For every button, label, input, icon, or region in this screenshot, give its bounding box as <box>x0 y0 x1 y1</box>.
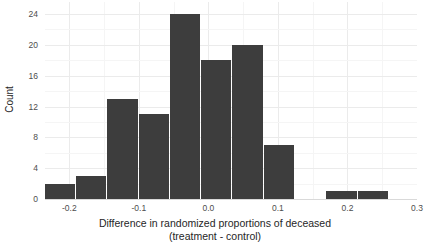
vertical-gridline-minor <box>382 2 383 199</box>
vertical-gridline-minor <box>313 2 314 199</box>
x-axis-tick-label: -0.2 <box>62 203 77 213</box>
y-axis-tick-label: 24 <box>29 9 38 19</box>
histogram-bar <box>264 145 294 199</box>
histogram-bar <box>358 191 388 199</box>
horizontal-gridline-major <box>45 45 417 46</box>
x-axis-tick-label: 0.0 <box>202 203 214 213</box>
y-axis-tick-label: 8 <box>33 132 38 142</box>
y-axis-title: Count <box>2 0 16 199</box>
y-axis-tick-label: 4 <box>33 163 38 173</box>
vertical-gridline-minor <box>104 2 105 199</box>
histogram-bar <box>201 60 231 199</box>
histogram-chart: Count 04812162024 -0.2-0.10.00.10.20.3 D… <box>0 0 430 248</box>
plot-panel <box>45 2 417 199</box>
x-axis-tick-label: 0.2 <box>342 203 354 213</box>
histogram-bar <box>326 191 356 199</box>
x-axis-tick-label: 0.3 <box>411 203 423 213</box>
horizontal-gridline-minor <box>45 29 417 30</box>
x-axis-title-line2: (treatment - control) <box>0 230 430 243</box>
histogram-bar <box>232 45 262 199</box>
histogram-bar <box>107 99 137 199</box>
histogram-bar <box>170 14 200 199</box>
y-axis-tick-label: 20 <box>29 40 38 50</box>
vertical-gridline-major <box>69 2 70 199</box>
x-axis-title-line1: Difference in randomized proportions of … <box>0 217 430 230</box>
histogram-bar <box>45 184 75 199</box>
histogram-bar <box>76 176 106 199</box>
x-axis-title: Difference in randomized proportions of … <box>0 217 430 243</box>
y-axis-tick-label: 16 <box>29 71 38 81</box>
vertical-gridline-major <box>347 2 348 199</box>
x-axis-tick-labels: -0.2-0.10.00.10.20.3 <box>0 200 430 216</box>
y-axis-tick-label: 12 <box>29 102 38 112</box>
y-axis-title-text: Count <box>4 86 15 113</box>
x-axis-tick-label: 0.1 <box>272 203 284 213</box>
x-axis-tick-label: -0.1 <box>132 203 147 213</box>
histogram-bar <box>139 114 169 199</box>
horizontal-gridline-major <box>45 14 417 15</box>
